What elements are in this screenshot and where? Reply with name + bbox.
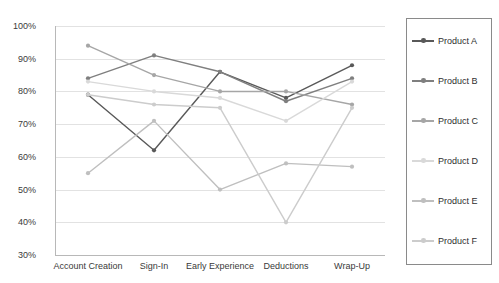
data-point	[86, 93, 90, 97]
data-point	[218, 187, 222, 191]
series-line	[88, 121, 352, 190]
data-point	[284, 220, 288, 224]
data-point	[218, 96, 222, 100]
legend-item-product-a[interactable]: Product A	[412, 35, 477, 47]
legend-label: Product F	[438, 236, 477, 246]
legend: Product AProduct BProduct CProduct DProd…	[406, 18, 492, 265]
data-point	[218, 106, 222, 110]
legend-item-product-d[interactable]: Product D	[412, 155, 478, 167]
data-point	[218, 70, 222, 74]
x-axis-tick-label: Early Experience	[186, 261, 254, 271]
legend-label: Product E	[438, 196, 478, 206]
series-product-d	[86, 80, 354, 123]
legend-swatch-icon	[412, 116, 434, 126]
series-product-f	[86, 93, 354, 225]
data-point	[152, 102, 156, 106]
legend-marker-icon	[421, 158, 426, 163]
y-axis-tick-label: 60%	[0, 153, 36, 162]
x-axis-tick-label: Deductions	[263, 261, 308, 271]
y-axis-tick-label: 30%	[0, 251, 36, 260]
data-point	[152, 73, 156, 77]
data-point	[350, 165, 354, 169]
legend-swatch-icon	[412, 36, 434, 46]
series-line	[88, 95, 352, 223]
legend-marker-icon	[421, 78, 426, 83]
series-product-e	[86, 119, 354, 192]
legend-item-product-e[interactable]: Product E	[412, 195, 478, 207]
series-line	[88, 46, 352, 105]
legend-swatch-icon	[412, 236, 434, 246]
data-point	[152, 89, 156, 93]
y-axis-tick-label: 40%	[0, 218, 36, 227]
data-point	[152, 53, 156, 57]
data-point	[218, 89, 222, 93]
y-axis-tick-label: 50%	[0, 186, 36, 195]
x-axis-tick-label: Sign-In	[140, 261, 169, 271]
legend-item-product-f[interactable]: Product F	[412, 235, 477, 247]
x-axis-tick-label: Wrap-Up	[334, 261, 370, 271]
data-point	[152, 119, 156, 123]
legend-marker-icon	[421, 118, 426, 123]
legend-swatch-icon	[412, 76, 434, 86]
legend-label: Product C	[438, 116, 478, 126]
data-point	[86, 171, 90, 175]
plot-area	[55, 26, 385, 255]
legend-marker-icon	[421, 198, 426, 203]
y-axis-tick-label: 100%	[0, 22, 36, 31]
data-point	[284, 161, 288, 165]
data-point	[284, 119, 288, 123]
legend-marker-icon	[421, 238, 426, 243]
series-lines	[55, 26, 385, 255]
data-point	[86, 44, 90, 48]
line-chart: 100%90%80%70%60%50%40%30% Account Creati…	[0, 0, 499, 283]
data-point	[350, 80, 354, 84]
x-axis-line	[55, 255, 385, 256]
y-axis-tick-label: 90%	[0, 55, 36, 64]
data-point	[152, 148, 156, 152]
legend-label: Product D	[438, 156, 478, 166]
series-product-b	[86, 53, 354, 103]
data-point	[284, 89, 288, 93]
legend-swatch-icon	[412, 156, 434, 166]
x-axis-tick-label: Account Creation	[53, 261, 122, 271]
data-point	[284, 99, 288, 103]
legend-label: Product B	[438, 76, 478, 86]
legend-marker-icon	[421, 38, 426, 43]
legend-item-product-c[interactable]: Product C	[412, 115, 478, 127]
y-axis-tick-label: 70%	[0, 120, 36, 129]
y-axis-tick-label: 80%	[0, 87, 36, 96]
legend-item-product-b[interactable]: Product B	[412, 75, 478, 87]
legend-label: Product A	[438, 36, 477, 46]
data-point	[350, 106, 354, 110]
series-line	[88, 55, 352, 101]
data-point	[350, 63, 354, 67]
data-point	[86, 80, 90, 84]
legend-swatch-icon	[412, 196, 434, 206]
